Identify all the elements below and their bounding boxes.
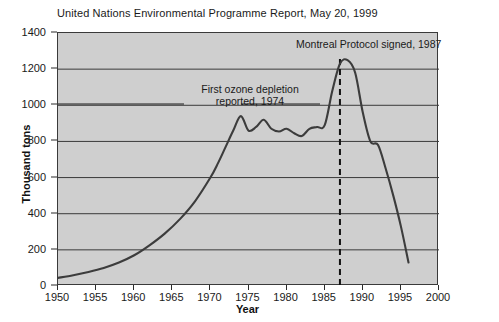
plot-svg [58,33,439,286]
x-tick-mark [248,285,249,290]
x-tick-mark [171,285,172,290]
x-tick-label: 1995 [388,291,412,303]
x-tick-mark [324,285,325,290]
chart-figure: United Nations Environmental Programme R… [0,0,499,322]
y-tick-label: 200 [28,243,46,255]
x-tick-label: 2000 [426,291,450,303]
x-tick-mark [95,285,96,290]
x-tick-label: 1975 [235,291,259,303]
annotation-ozone-line2: reported, 1974 [185,95,315,107]
y-axis-ticks: 0200400600800100012001400 [0,32,57,285]
x-tick-mark [209,285,210,290]
y-tick-label: 800 [28,134,46,146]
annotation-ozone-line1: First ozone depletion [185,83,315,95]
y-tick-label: 1000 [22,98,46,110]
plot-area [57,32,438,285]
y-tick-label: 1200 [22,62,46,74]
x-tick-label: 1985 [311,291,335,303]
annotation-first-ozone-depletion: First ozone depletion reported, 1974 [185,83,315,107]
y-tick-label: 0 [40,279,46,291]
y-tick-label: 400 [28,207,46,219]
chart-title: United Nations Environmental Programme R… [57,7,378,19]
x-tick-mark [362,285,363,290]
y-tick-label: 600 [28,171,46,183]
x-tick-mark [57,285,58,290]
x-tick-label: 1950 [45,291,69,303]
x-tick-mark [400,285,401,290]
x-tick-label: 1980 [273,291,297,303]
x-tick-label: 1965 [159,291,183,303]
x-axis-title: Year [57,303,438,315]
x-tick-mark [438,285,439,290]
x-tick-mark [133,285,134,290]
x-tick-label: 1970 [197,291,221,303]
x-tick-label: 1960 [121,291,145,303]
x-tick-label: 1990 [350,291,374,303]
annotation-montreal-protocol: Montreal Protocol signed, 1987 [296,38,441,50]
y-tick-label: 1400 [22,26,46,38]
x-tick-label: 1955 [83,291,107,303]
x-tick-mark [286,285,287,290]
